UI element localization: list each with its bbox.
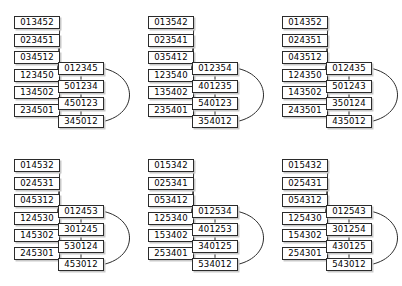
leaf-node: 153402	[148, 229, 194, 242]
hub-node: 012534	[192, 205, 238, 218]
leaf-node: 054312	[282, 194, 328, 207]
chain-node: 350124	[326, 97, 372, 110]
leaf-node: 045312	[14, 194, 60, 207]
hub-node: 012453	[58, 205, 104, 218]
cluster: 0154320254310543121254301543022543010125…	[268, 143, 402, 286]
leaf-node: 015432	[282, 159, 328, 172]
leaf-node: 135402	[148, 86, 194, 99]
leaf-node: 254301	[282, 247, 328, 260]
leaf-node: 123450	[14, 69, 60, 82]
chain-node: 534012	[192, 258, 238, 271]
diagram-grid: 0134520234510345121234501345022345010123…	[0, 0, 402, 286]
chain-node: 543012	[326, 258, 372, 271]
leaf-node: 125430	[282, 212, 328, 225]
chain-node: 540123	[192, 97, 238, 110]
leaf-node: 043512	[282, 51, 328, 64]
chain-node: 435012	[326, 115, 372, 128]
leaf-node: 143502	[282, 86, 328, 99]
chain-node: 501234	[58, 80, 104, 93]
leaf-node: 053412	[148, 194, 194, 207]
chain-node: 354012	[192, 115, 238, 128]
hub-node: 012345	[58, 62, 104, 75]
edge-back-curve	[372, 69, 398, 122]
leaf-node: 024351	[282, 34, 328, 47]
leaf-node: 034512	[14, 51, 60, 64]
edge-back-curve	[238, 69, 264, 122]
hub-node: 012435	[326, 62, 372, 75]
chain-node: 401235	[192, 80, 238, 93]
cluster: 0143520243510435121243501435022435010124…	[268, 0, 402, 143]
cluster: 0134520234510345121234501345022345010123…	[0, 0, 134, 143]
leaf-node: 145302	[14, 229, 60, 242]
leaf-node: 235401	[148, 104, 194, 117]
leaf-node: 123540	[148, 69, 194, 82]
leaf-node: 154302	[282, 229, 328, 242]
edge-back-curve	[238, 212, 264, 265]
leaf-node: 035412	[148, 51, 194, 64]
leaf-node: 015342	[148, 159, 194, 172]
edge-back-curve	[104, 69, 130, 122]
cluster: 0135420235410354121235401354022354010123…	[134, 0, 268, 143]
chain-node: 530124	[58, 240, 104, 253]
chain-node: 340125	[192, 240, 238, 253]
leaf-node: 024531	[14, 177, 60, 190]
leaf-node: 124530	[14, 212, 60, 225]
chain-node: 501243	[326, 80, 372, 93]
chain-node: 450123	[58, 97, 104, 110]
leaf-node: 025341	[148, 177, 194, 190]
hub-node: 012543	[326, 205, 372, 218]
leaf-node: 125340	[148, 212, 194, 225]
chain-node: 453012	[58, 258, 104, 271]
leaf-node: 243501	[282, 104, 328, 117]
cluster: 0153420253410534121253401534022534010125…	[134, 143, 268, 286]
leaf-node: 013542	[148, 16, 194, 29]
edge-back-curve	[104, 212, 130, 265]
chain-node: 301254	[326, 223, 372, 236]
leaf-node: 234501	[14, 104, 60, 117]
chain-node: 301245	[58, 223, 104, 236]
leaf-node: 245301	[14, 247, 60, 260]
cluster: 0145320245310453121245301453022453010124…	[0, 143, 134, 286]
leaf-node: 253401	[148, 247, 194, 260]
leaf-node: 023541	[148, 34, 194, 47]
leaf-node: 025431	[282, 177, 328, 190]
leaf-node: 023451	[14, 34, 60, 47]
chain-node: 401253	[192, 223, 238, 236]
leaf-node: 013452	[14, 16, 60, 29]
hub-node: 012354	[192, 62, 238, 75]
leaf-node: 014352	[282, 16, 328, 29]
chain-node: 430125	[326, 240, 372, 253]
edge-back-curve	[372, 212, 398, 265]
leaf-node: 014532	[14, 159, 60, 172]
leaf-node: 134502	[14, 86, 60, 99]
chain-node: 345012	[58, 115, 104, 128]
leaf-node: 124350	[282, 69, 328, 82]
